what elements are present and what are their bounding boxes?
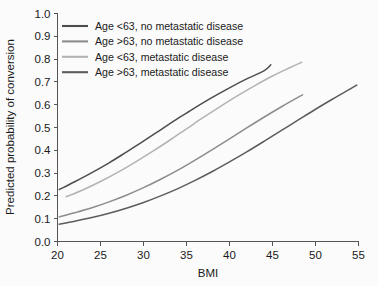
x-tick-label: 35 (180, 249, 193, 261)
series-line-2 (66, 62, 302, 197)
y-tick-label: 0.8 (35, 53, 51, 65)
line-chart-canvas: 0.00.10.20.30.40.50.60.70.80.91.0 202530… (0, 0, 378, 286)
y-tick-label: 0.5 (35, 122, 51, 134)
x-tick-label: 30 (137, 249, 150, 261)
y-tick-label: 0.6 (35, 99, 51, 111)
x-tick-label: 55 (352, 249, 365, 261)
axes-group (58, 14, 359, 242)
legend-label-0: Age <63, no metastatic disease (95, 20, 243, 32)
legend-label-3: Age >63, metastatic disease (95, 66, 228, 78)
y-tick-label: 0.3 (35, 167, 51, 179)
x-tick-label: 40 (223, 249, 236, 261)
y-axis-title: Predicted probability of conversion (4, 39, 16, 215)
legend-label-2: Age <63, metastatic disease (95, 51, 228, 63)
x-axis-title: BMI (198, 267, 218, 279)
y-tick-label: 0.9 (35, 30, 51, 42)
legend-label-1: Age >63, no metastatic disease (95, 35, 243, 47)
series-line-1 (59, 95, 302, 217)
y-tick-label: 1.0 (35, 8, 51, 20)
y-tick-label: 0.1 (35, 213, 51, 225)
data-series-group (59, 62, 357, 224)
y-axis-ticks: 0.00.10.20.30.40.50.60.70.80.91.0 (35, 8, 58, 248)
legend: Age <63, no metastatic diseaseAge >63, n… (62, 20, 243, 78)
x-tick-label: 45 (266, 249, 279, 261)
y-tick-label: 0.4 (35, 144, 52, 156)
y-tick-label: 0.0 (35, 236, 51, 248)
x-axis-ticks: 2025303540455055 (51, 242, 365, 261)
x-tick-label: 20 (51, 249, 64, 261)
y-tick-label: 0.7 (35, 76, 51, 88)
x-tick-label: 25 (94, 249, 107, 261)
series-line-0 (59, 65, 271, 190)
x-tick-label: 50 (309, 249, 322, 261)
chart-figure: 0.00.10.20.30.40.50.60.70.80.91.0 202530… (0, 0, 378, 286)
y-tick-label: 0.2 (35, 190, 51, 202)
